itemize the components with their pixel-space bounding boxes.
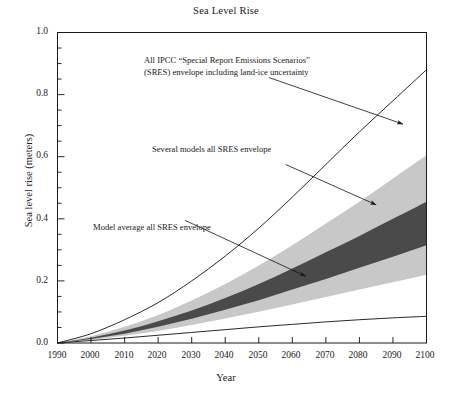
annotation-outer-envelope: All IPCC “Special Report Emissions Scena… <box>144 55 310 78</box>
annotation-several-models-line1: Several models all SRES envelope <box>152 144 271 154</box>
annotation-model-average-line1: Model average all SRES envelope <box>93 222 211 232</box>
annotation-several-models: Several models all SRES envelope <box>152 144 271 156</box>
curve-outer-lower-curve <box>58 316 427 343</box>
envelope-bands <box>58 155 427 343</box>
chart-figure: Sea Level Rise Sea level rise (meters) Y… <box>0 0 452 399</box>
arrow-annotation-outer-envelope <box>269 78 403 125</box>
arrow-annotation-several-models <box>286 164 377 204</box>
annotation-outer-envelope-line2: (SRES) envelope including land-ice uncer… <box>144 67 309 77</box>
annotation-outer-envelope-line1: All IPCC “Special Report Emissions Scena… <box>144 55 310 65</box>
annotation-model-average: Model average all SRES envelope <box>93 222 211 234</box>
